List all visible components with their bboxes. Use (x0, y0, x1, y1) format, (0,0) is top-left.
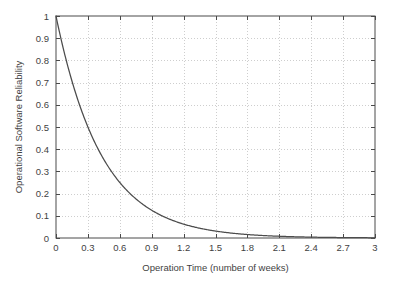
y-tick-label: 0.9 (36, 33, 49, 44)
y-tick-label: 0.5 (36, 122, 49, 133)
x-tick-label: 0 (53, 242, 58, 253)
y-tick-label: 0.6 (36, 99, 49, 110)
x-tick-label: 3 (372, 242, 377, 253)
y-tick-label: 0.2 (36, 188, 49, 199)
y-axis-title: Operational Software Reliability (13, 60, 24, 193)
x-tick-label: 0.9 (145, 242, 158, 253)
y-tick-label: 0.7 (36, 77, 49, 88)
y-tick-label: 0 (44, 233, 49, 244)
x-tick-label: 1.8 (241, 242, 254, 253)
x-tick-label: 2.1 (273, 242, 286, 253)
y-tick-label: 1 (44, 11, 49, 22)
y-tick-label: 0.8 (36, 55, 49, 66)
x-tick-label: 0.3 (81, 242, 94, 253)
x-tick-label: 2.7 (336, 242, 349, 253)
y-tick-label: 0.1 (36, 210, 49, 221)
reliability-decay-chart: 00.30.60.91.21.51.82.12.42.73 00.10.20.3… (0, 0, 399, 285)
y-tick-label: 0.4 (36, 144, 49, 155)
x-axis-title: Operation Time (number of weeks) (142, 262, 288, 273)
x-tick-label: 1.5 (209, 242, 222, 253)
x-tick-label: 0.6 (113, 242, 126, 253)
x-tick-label: 1.2 (177, 242, 190, 253)
y-tick-label: 0.3 (36, 166, 49, 177)
chart-figure: 00.30.60.91.21.51.82.12.42.73 00.10.20.3… (0, 0, 399, 285)
x-tick-label: 2.4 (305, 242, 318, 253)
